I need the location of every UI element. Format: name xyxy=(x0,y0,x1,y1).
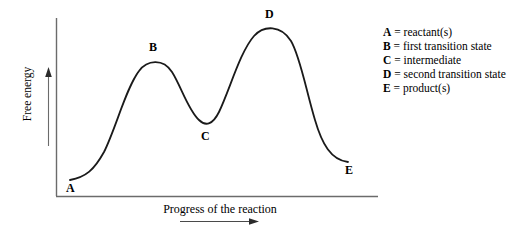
legend-equals-c: = xyxy=(394,54,401,66)
curve-point-label-e: E xyxy=(345,164,353,176)
legend-item-e: E = product(s) xyxy=(383,81,506,95)
curve-point-label-a: A xyxy=(66,182,75,194)
legend-equals-b: = xyxy=(394,40,401,52)
legend-description-b: first transition state xyxy=(403,40,492,52)
legend-key-c: C xyxy=(383,54,391,66)
legend-key-d: D xyxy=(383,68,391,80)
free-energy-curve xyxy=(70,28,348,180)
energy-diagram-figure: A B C D E Free energy Progress of the re… xyxy=(0,0,524,230)
curve-point-label-d: D xyxy=(265,8,274,20)
legend-equals-e: = xyxy=(394,82,401,94)
legend-key-a: A xyxy=(383,26,391,38)
legend-description-d: second transition state xyxy=(404,68,506,80)
x-axis-arrow-head-icon xyxy=(249,218,259,225)
legend-description-c: intermediate xyxy=(404,54,461,66)
legend-key-e: E xyxy=(383,82,391,94)
y-axis-title: Free energy xyxy=(21,58,33,130)
legend: A = reactant(s) B = first transition sta… xyxy=(383,25,506,95)
legend-equals-d: = xyxy=(394,68,401,80)
legend-item-a: A = reactant(s) xyxy=(383,25,506,39)
legend-key-b: B xyxy=(383,40,391,52)
legend-item-c: C = intermediate xyxy=(383,53,506,67)
legend-description-e: product(s) xyxy=(403,82,450,94)
curve-point-label-b: B xyxy=(149,41,157,53)
curve-point-label-c: C xyxy=(201,130,210,142)
legend-item-d: D = second transition state xyxy=(383,67,506,81)
legend-equals-a: = xyxy=(394,26,401,38)
y-axis-arrow-head-icon xyxy=(45,67,52,77)
legend-item-b: B = first transition state xyxy=(383,39,506,53)
legend-description-a: reactant(s) xyxy=(404,26,453,38)
x-axis-title: Progress of the reaction xyxy=(130,203,310,216)
